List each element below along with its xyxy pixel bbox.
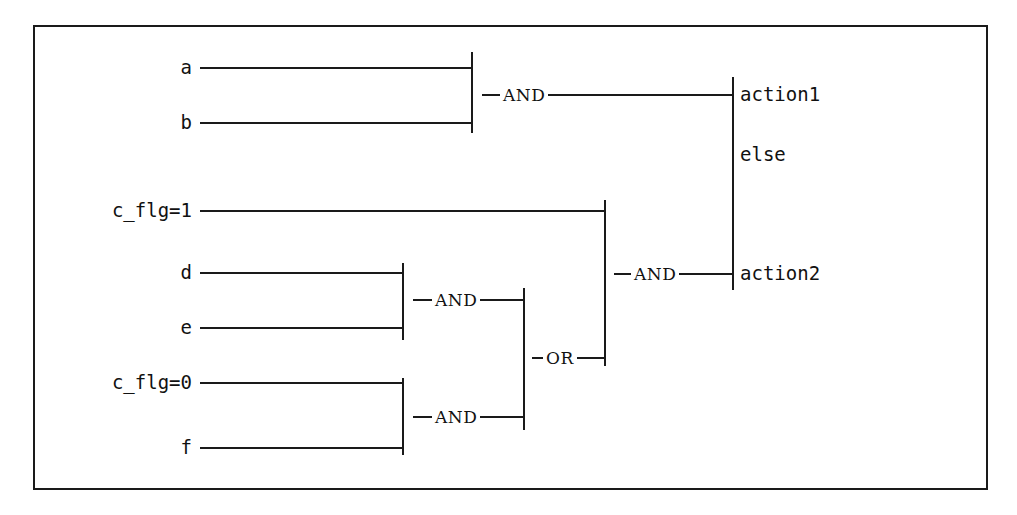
output-label-action2: action2 [740,264,820,283]
input-label-b: b [100,113,192,132]
operator-and-de: AND [432,292,480,309]
input-label-f: f [100,438,192,457]
operator-and-ab: AND [500,87,548,104]
output-label-else: else [740,145,786,164]
input-label-e: e [100,318,192,337]
input-label-c-flg-1: c_flg=1 [60,201,192,220]
diagram-canvas: a b c_flg=1 d e c_flg=0 f AND AND AND OR… [0,0,1017,515]
output-label-action1: action1 [740,85,820,104]
operator-and-outer: AND [631,266,679,283]
input-label-c-flg-0: c_flg=0 [60,373,192,392]
operator-and-cf: AND [432,409,480,426]
operator-or-mid: OR [543,350,577,367]
input-label-a: a [100,58,192,77]
input-label-d: d [100,263,192,282]
